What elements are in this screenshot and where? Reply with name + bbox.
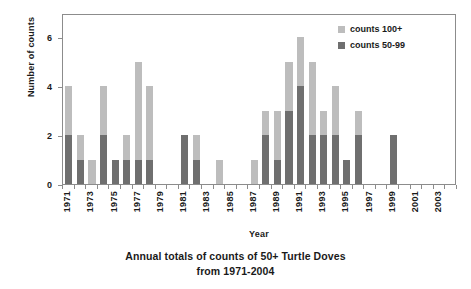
x-tick-mark (421, 185, 422, 189)
bar-segment-counts-50-99 (309, 135, 316, 184)
bar-segment-counts-50-99 (112, 160, 119, 184)
x-tick-mark (259, 185, 260, 189)
bar-segment-counts-50-99 (146, 160, 153, 184)
bar-1981 (181, 135, 188, 184)
legend-item: counts 100+ (338, 24, 405, 34)
x-tick-label: 1981 (179, 191, 188, 212)
x-tick-label: 1989 (272, 191, 281, 212)
bar-1990 (285, 62, 292, 184)
x-tick-mark (363, 185, 364, 189)
bar-segment-counts-50-99 (135, 160, 142, 184)
x-tick-mark (317, 185, 318, 189)
x-tick-label: 1993 (318, 191, 327, 212)
bar-segment-counts-50-99 (100, 135, 107, 184)
x-tick-mark (398, 185, 399, 189)
x-tick-mark (433, 185, 434, 189)
bar-segment-counts-100-plus (262, 111, 269, 135)
bar-segment-counts-100-plus (193, 135, 200, 159)
x-tick-label: 1971 (63, 191, 72, 212)
x-tick-label: 1997 (365, 191, 374, 212)
bar-segment-counts-50-99 (285, 111, 292, 184)
bar-1975 (112, 160, 119, 184)
x-tick-mark (236, 185, 237, 189)
x-tick-mark (410, 185, 411, 189)
y-tick-label: 2 (32, 132, 52, 141)
bar-1988 (262, 111, 269, 184)
x-tick-label: 1991 (295, 191, 304, 212)
bar-segment-counts-50-99 (181, 135, 188, 184)
bar-1972 (77, 135, 84, 184)
bar-segment-counts-100-plus (65, 86, 72, 135)
x-tick-label: 1977 (133, 191, 142, 212)
x-tick-label: 1983 (202, 191, 211, 212)
x-tick-label: 2003 (434, 191, 443, 212)
legend-item: counts 50-99 (338, 40, 405, 50)
bar-segment-counts-100-plus (146, 86, 153, 159)
bar-1971 (65, 86, 72, 184)
bar-segment-counts-100-plus (216, 160, 223, 184)
x-tick-mark (386, 185, 387, 189)
bar-segment-counts-100-plus (355, 111, 362, 135)
x-tick-mark (120, 185, 121, 189)
bar-segment-counts-50-99 (262, 135, 269, 184)
bar-segment-counts-50-99 (77, 160, 84, 184)
bar-1974 (100, 86, 107, 184)
bar-1999 (390, 135, 397, 184)
bar-1994 (332, 86, 339, 184)
x-tick-mark (166, 185, 167, 189)
bar-segment-counts-50-99 (343, 160, 350, 184)
x-tick-mark (62, 185, 63, 189)
bar-1991 (297, 37, 304, 184)
bar-segment-counts-50-99 (355, 135, 362, 184)
x-tick-mark (282, 185, 283, 189)
bar-1996 (355, 111, 362, 184)
x-axis-title: Year (62, 229, 456, 239)
x-tick-mark (74, 185, 75, 189)
bar-segment-counts-50-99 (193, 160, 200, 184)
bar-1973 (88, 160, 95, 184)
bar-segment-counts-100-plus (285, 62, 292, 111)
x-tick-mark (224, 185, 225, 189)
x-tick-label: 1973 (86, 191, 95, 212)
x-tick-mark (97, 185, 98, 189)
x-tick-mark (132, 185, 133, 189)
bar-segment-counts-100-plus (123, 135, 130, 159)
x-tick-label: 1999 (388, 191, 397, 212)
bar-segment-counts-100-plus (274, 111, 281, 160)
bar-segment-counts-50-99 (274, 160, 281, 184)
x-tick-mark (201, 185, 202, 189)
bar-segment-counts-100-plus (297, 37, 304, 86)
x-tick-mark (189, 185, 190, 189)
bar-1982 (193, 135, 200, 184)
bar-segment-counts-100-plus (77, 135, 84, 159)
bar-1984 (216, 160, 223, 184)
x-tick-mark (340, 185, 341, 189)
chart-caption-line-2: from 1971-2004 (0, 264, 471, 279)
y-tick-label: 0 (32, 181, 52, 190)
x-tick-mark (143, 185, 144, 189)
bar-segment-counts-100-plus (251, 160, 258, 184)
bar-1978 (146, 86, 153, 184)
bar-segment-counts-100-plus (135, 62, 142, 160)
y-axis-title: Number of counts (26, 0, 36, 122)
legend: counts 100+ counts 50-99 (338, 24, 405, 56)
legend-swatch-counts-100-plus (338, 26, 345, 33)
bar-1987 (251, 160, 258, 184)
legend-label-counts-50-99: counts 50-99 (350, 40, 405, 50)
bar-segment-counts-100-plus (309, 62, 316, 135)
x-tick-mark (294, 185, 295, 189)
bar-segment-counts-50-99 (390, 135, 397, 184)
x-tick-mark (108, 185, 109, 189)
x-tick-label: 2001 (411, 191, 420, 212)
x-tick-label: 1979 (156, 191, 165, 212)
x-tick-mark (155, 185, 156, 189)
x-tick-label: 1987 (249, 191, 258, 212)
bar-segment-counts-100-plus (320, 111, 327, 135)
x-tick-mark (271, 185, 272, 189)
x-tick-label: 1985 (226, 191, 235, 212)
x-tick-mark (213, 185, 214, 189)
x-tick-label: 1995 (341, 191, 350, 212)
x-tick-mark (178, 185, 179, 189)
bar-segment-counts-100-plus (100, 86, 107, 135)
x-tick-mark (329, 185, 330, 189)
